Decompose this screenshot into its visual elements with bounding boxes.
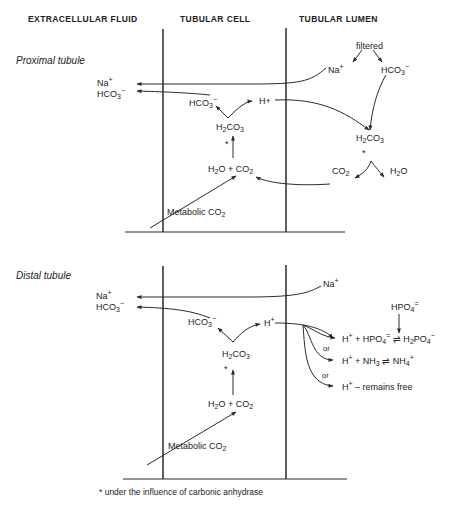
section-title-distal: Distal tubule — [16, 270, 71, 281]
label-ecf-na: Na+ — [97, 79, 113, 88]
label-filtered: filtered — [356, 42, 383, 51]
label-distal-ecf-hco3: HCO3− — [96, 303, 124, 312]
label-distal-ecf-na: Na+ — [96, 292, 112, 301]
label-lumen-h2co3: H2CO3 — [356, 134, 384, 143]
label-distal-cell-h2co3: H2CO3 — [222, 350, 250, 359]
label-distal-cell-hco3: HCO3− — [188, 318, 216, 327]
asterisk-proximal-cell: * — [225, 140, 229, 149]
footnote: * under the influence of carbonic anhydr… — [99, 487, 263, 497]
label-cell-h: H+ — [259, 97, 271, 106]
label-cell-h2co3: H2CO3 — [216, 123, 244, 132]
label-or-2: or — [322, 372, 329, 380]
label-cell-h2o-co2: H2O + CO2 — [208, 165, 253, 174]
label-metabolic-co2-proximal: Metabolic CO2 — [167, 208, 225, 217]
label-lumen-hco3: HCO3− — [381, 66, 409, 75]
label-lumen-h2o: H2O — [390, 167, 407, 176]
label-metabolic-co2-distal: Metabolic CO2 — [168, 442, 226, 451]
label-distal-cell-h: H+ — [264, 319, 275, 328]
label-ecf-hco3: HCO3− — [97, 90, 125, 99]
label-or-1: or — [323, 345, 330, 353]
reaction-phosphate-buffer: H+ + HPO4= ⇌ H2PO4− — [342, 335, 435, 344]
asterisk-proximal-lumen: * — [362, 149, 366, 158]
reaction-ammonia-buffer: H+ + NH3 ⇌ NH4+ — [342, 357, 414, 366]
diagram-lines — [0, 0, 453, 511]
reaction-free-h: H+ – remains free — [342, 383, 413, 392]
label-hpo4: HPO4= — [391, 303, 419, 312]
header-tubular-lumen: TUBULAR LUMEN — [299, 14, 378, 24]
label-lumen-na: Na+ — [328, 66, 344, 75]
header-tubular-cell: TUBULAR CELL — [180, 14, 250, 24]
label-distal-lumen-na: Na+ — [323, 280, 339, 289]
label-distal-cell-h2o-co2: H2O + CO2 — [208, 400, 253, 409]
header-extracellular-fluid: EXTRACELLULAR FLUID — [28, 14, 138, 24]
section-title-proximal: Proximal tubule — [16, 55, 85, 66]
label-lumen-co2: CO2 — [332, 167, 349, 176]
asterisk-distal-cell: * — [224, 365, 228, 374]
label-cell-hco3: HCO3− — [189, 99, 217, 108]
